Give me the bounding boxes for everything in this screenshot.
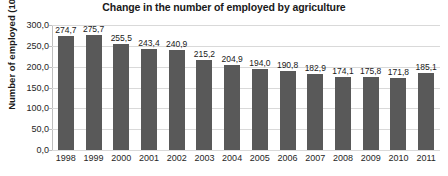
bar-value-label: 240,9 <box>166 39 187 49</box>
bar-group[interactable]: 255,5 <box>107 25 135 150</box>
bar-group[interactable]: 275,7 <box>80 25 108 150</box>
bar[interactable] <box>196 60 212 150</box>
bar[interactable] <box>86 35 102 150</box>
x-tick-label: 2005 <box>246 153 274 163</box>
x-tick-label: 2006 <box>274 153 302 163</box>
bar-group[interactable]: 174,1 <box>329 25 357 150</box>
y-axis-tick-labels: 0,050,0100,0150,0200,0250,0300,0 <box>0 25 49 150</box>
bar-value-label: 255,5 <box>111 33 132 43</box>
bar-group[interactable]: 190,8 <box>274 25 302 150</box>
y-tick-label: 150,0 <box>3 83 49 93</box>
bar-value-label: 190,8 <box>277 60 298 70</box>
bar-group[interactable]: 171,8 <box>385 25 413 150</box>
y-tick-label: 0,0 <box>3 145 49 155</box>
bar-value-label: 274,7 <box>55 25 76 35</box>
x-tick-label: 2001 <box>135 153 163 163</box>
bar[interactable] <box>58 36 74 150</box>
y-tick-label: 200,0 <box>3 62 49 72</box>
chart-title: Change in the number of employed by agri… <box>0 1 448 13</box>
x-tick-label: 2004 <box>218 153 246 163</box>
bar[interactable] <box>418 73 434 150</box>
y-tick-label: 250,0 <box>3 41 49 51</box>
bar[interactable] <box>335 77 351 150</box>
bar-value-label: 204,9 <box>221 54 242 64</box>
bar[interactable] <box>363 77 379 150</box>
x-tick-label: 2002 <box>163 153 191 163</box>
bar[interactable] <box>113 44 129 150</box>
y-tick-label: 100,0 <box>3 103 49 113</box>
x-tick-label: 2011 <box>412 153 440 163</box>
bar-group[interactable]: 240,9 <box>163 25 191 150</box>
bar-value-label: 243,4 <box>138 38 159 48</box>
bar[interactable] <box>224 65 240 150</box>
bar[interactable] <box>390 78 406 150</box>
bar-value-label: 275,7 <box>83 24 104 34</box>
bar[interactable] <box>252 69 268 150</box>
x-tick-label: 2000 <box>107 153 135 163</box>
plot-area: 274,7275,7255,5243,4240,9215,2204,9194,0… <box>52 25 440 150</box>
bar[interactable] <box>169 50 185 150</box>
bar-group[interactable]: 175,8 <box>357 25 385 150</box>
bar-group[interactable]: 215,2 <box>191 25 219 150</box>
bar-group[interactable]: 185,1 <box>412 25 440 150</box>
bar-value-label: 185,1 <box>415 62 436 72</box>
gridline <box>52 150 440 151</box>
bar-value-label: 175,8 <box>360 66 381 76</box>
y-tick-label: 300,0 <box>3 20 49 30</box>
bar-group[interactable]: 204,9 <box>218 25 246 150</box>
bar-value-label: 194,0 <box>249 58 270 68</box>
bar-value-label: 174,1 <box>332 66 353 76</box>
bar-group[interactable]: 274,7 <box>52 25 80 150</box>
bar[interactable] <box>141 49 157 150</box>
bar-chart: Change in the number of employed by agri… <box>0 0 448 176</box>
x-tick-label: 1998 <box>52 153 80 163</box>
bar-group[interactable]: 182,9 <box>301 25 329 150</box>
x-tick-label: 2009 <box>357 153 385 163</box>
x-axis-tick-labels: 1998199920002001200220032004200520062007… <box>52 153 440 169</box>
x-tick-label: 2003 <box>191 153 219 163</box>
bar[interactable] <box>280 71 296 151</box>
bar-group[interactable]: 243,4 <box>135 25 163 150</box>
x-tick-label: 1999 <box>80 153 108 163</box>
y-tick-label: 50,0 <box>3 124 49 134</box>
x-tick-label: 2008 <box>329 153 357 163</box>
bar-value-label: 171,8 <box>388 67 409 77</box>
bar-group[interactable]: 194,0 <box>246 25 274 150</box>
bar-value-label: 215,2 <box>194 49 215 59</box>
x-tick-label: 2007 <box>301 153 329 163</box>
bar[interactable] <box>307 74 323 150</box>
y-tick-mark <box>49 150 52 151</box>
bar-value-label: 182,9 <box>305 63 326 73</box>
x-tick-label: 2010 <box>385 153 413 163</box>
